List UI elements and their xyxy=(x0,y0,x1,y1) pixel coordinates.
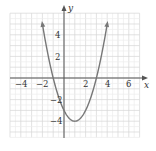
x-tick-4: 4 xyxy=(105,79,110,89)
x-tick-minus2: −2 xyxy=(36,79,49,89)
y-axis-label: y xyxy=(67,3,74,13)
grid xyxy=(10,13,140,137)
y-axis-arrow-icon xyxy=(62,5,67,11)
x-tick-2: 2 xyxy=(83,79,88,89)
y-tick-minus4: −4 xyxy=(50,116,63,126)
axes xyxy=(10,5,148,138)
y-tick-minus2: −2 xyxy=(50,95,63,105)
parabola-graph: y x −4 −2 2 4 6 4 2 −2 −4 xyxy=(0,0,156,151)
y-tick-2: 2 xyxy=(55,52,60,62)
x-tick-minus4: −4 xyxy=(15,79,28,89)
x-axis-label: x xyxy=(144,80,149,90)
y-tick-4: 4 xyxy=(55,30,60,40)
x-tick-6: 6 xyxy=(126,79,131,89)
